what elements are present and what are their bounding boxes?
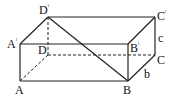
label-d: D: [38, 43, 47, 57]
hidden-edge-d-a: [20, 55, 48, 81]
label-b1: Bˡ: [130, 41, 140, 55]
label-d1: Dˡ: [39, 3, 50, 17]
label-a1: Aˡ: [7, 37, 18, 51]
diagonal-d1-b: [48, 17, 128, 81]
edge-label-c: c: [158, 31, 163, 45]
edge-c1-b1: [128, 17, 155, 44]
edge-b-c: [128, 55, 155, 81]
label-c1: Cˡ: [157, 9, 167, 23]
label-a: A: [15, 83, 24, 97]
label-c: C: [157, 53, 165, 67]
edge-label-b: b: [144, 67, 150, 81]
label-b: B: [123, 83, 131, 97]
prism-diagram: Dˡ Cˡ Aˡ Bˡ D C A B c b: [0, 0, 176, 99]
edge-a1-d1: [20, 17, 48, 44]
